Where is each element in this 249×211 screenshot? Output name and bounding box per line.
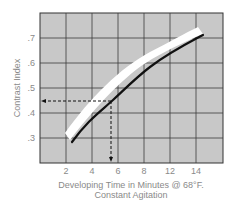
svg-text:2: 2 xyxy=(63,166,68,176)
svg-text:4: 4 xyxy=(89,166,94,176)
contrast-index-chart: .7 .6 .5 .4 .3 2 4 6 8 12 14 Contrast In… xyxy=(0,0,249,211)
svg-text:12: 12 xyxy=(165,166,175,176)
y-axis-label: Contrast Index xyxy=(12,58,22,117)
svg-text:.7: .7 xyxy=(27,33,35,43)
y-tick-labels: .7 .6 .5 .4 .3 xyxy=(27,33,35,143)
x-axis-label: Developing Time in Minutes @ 68°F. xyxy=(58,180,203,190)
svg-text:8: 8 xyxy=(141,166,146,176)
svg-text:.6: .6 xyxy=(27,58,35,68)
svg-text:6: 6 xyxy=(115,166,120,176)
svg-text:.3: .3 xyxy=(27,133,35,143)
svg-text:14: 14 xyxy=(191,166,201,176)
x-axis-label-line2: Constant Agitation xyxy=(94,190,167,200)
svg-text:.5: .5 xyxy=(27,83,35,93)
x-tick-labels: 2 4 6 8 12 14 xyxy=(63,166,201,176)
svg-text:.4: .4 xyxy=(27,108,35,118)
